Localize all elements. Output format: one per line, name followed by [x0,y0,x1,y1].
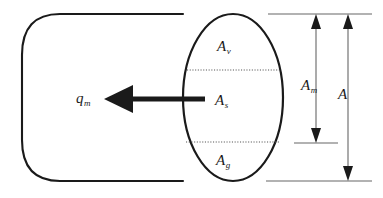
label-area-gas-subscript: g [226,160,231,170]
dimension-a-arrowhead-bottom [343,166,353,181]
label-mass-flux: qm [76,90,90,106]
cylinder-area-diagram: Av As Ag qm Am A [0,0,383,198]
label-area-vapour-base: A [217,38,226,54]
flow-arrow-head [104,85,133,113]
label-mass-flux-base: q [76,90,84,106]
label-area-gas-base: A [216,152,225,168]
label-mass-flux-subscript: m [84,98,91,108]
dimension-a-arrowhead-top [343,14,353,29]
dimension-am-arrowhead-top [311,14,321,29]
label-area-vapour-subscript: v [227,46,231,56]
label-area-solid: As [215,92,228,108]
label-area-middle: Am [301,77,317,93]
label-area-middle-base: A [301,77,310,93]
label-area-total-base: A [338,86,347,102]
diagram-canvas [0,0,383,198]
label-area-middle-subscript: m [311,85,318,95]
label-area-vapour: Av [217,38,230,54]
dimension-am-arrowhead-bottom [311,128,321,143]
label-area-total: A [338,86,347,102]
label-area-solid-subscript: s [225,100,229,110]
label-area-solid-base: A [215,92,224,108]
label-area-gas: Ag [216,152,230,168]
